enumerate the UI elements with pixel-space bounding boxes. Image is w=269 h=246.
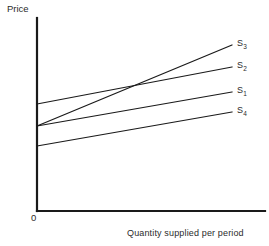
curve-label-s4: S4: [237, 105, 247, 115]
origin-label: 0: [31, 213, 36, 223]
supply-curve-s1: [37, 92, 232, 126]
y-axis-label: Price: [7, 4, 29, 14]
plot-area: [0, 0, 269, 246]
curve-label-s1: S1: [237, 85, 247, 95]
x-axis-label: Quantity supplied per period: [127, 229, 244, 238]
curve-label-s2: S2: [237, 60, 247, 70]
curve-label-s3: S3: [237, 38, 247, 48]
supply-curve-s4: [37, 112, 232, 146]
supply-curve-s2: [37, 67, 232, 104]
supply-curves-figure: Price 0 Quantity supplied per period S3 …: [0, 0, 269, 246]
